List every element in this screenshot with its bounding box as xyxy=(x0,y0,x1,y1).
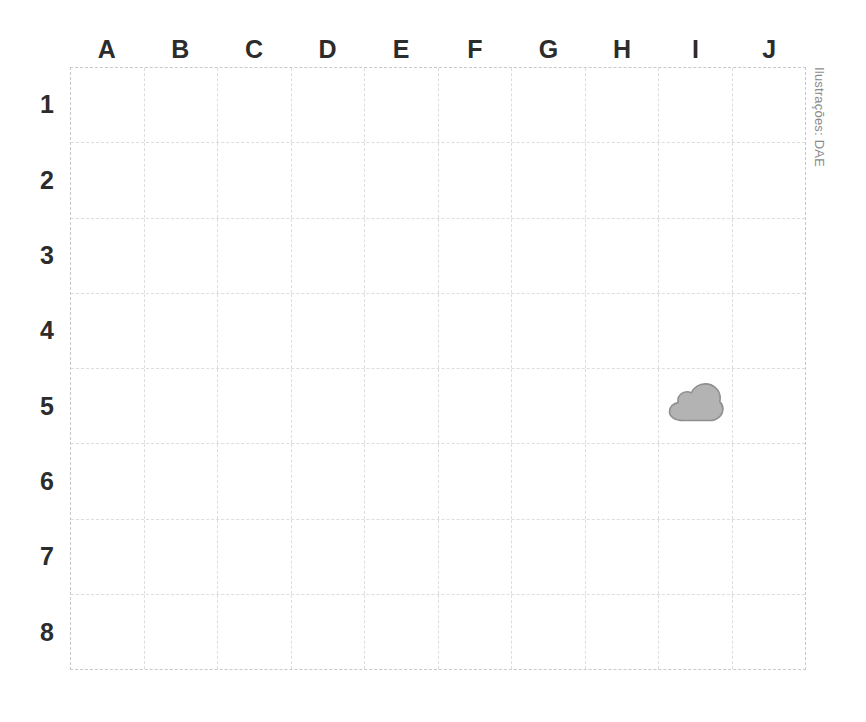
grid-cell-e8[interactable] xyxy=(365,595,439,669)
grid-row-4 xyxy=(71,294,805,369)
grid-cell-j5[interactable] xyxy=(733,369,806,443)
grid-cell-h8[interactable] xyxy=(586,595,660,669)
grid-cell-j4[interactable] xyxy=(733,294,806,368)
grid-cell-a6[interactable] xyxy=(71,444,145,518)
grid-cell-c2[interactable] xyxy=(218,143,292,217)
grid-cell-c8[interactable] xyxy=(218,595,292,669)
row-label-6: 6 xyxy=(30,444,64,519)
grid-cell-h6[interactable] xyxy=(586,444,660,518)
grid-cell-f4[interactable] xyxy=(439,294,513,368)
grid-cell-e6[interactable] xyxy=(365,444,439,518)
grid-cell-c1[interactable] xyxy=(218,68,292,142)
column-label-j: J xyxy=(732,34,806,64)
grid-cell-d5[interactable] xyxy=(292,369,366,443)
grid-rows xyxy=(71,68,805,669)
row-label-2: 2 xyxy=(30,142,64,217)
grid-cell-g2[interactable] xyxy=(512,143,586,217)
grid-cell-i6[interactable] xyxy=(659,444,733,518)
grid-cell-h3[interactable] xyxy=(586,219,660,293)
grid-cell-j7[interactable] xyxy=(733,520,806,594)
grid-cell-e4[interactable] xyxy=(365,294,439,368)
grid-cell-b4[interactable] xyxy=(145,294,219,368)
column-header-row: ABCDEFGHIJ xyxy=(70,34,806,64)
grid-cell-e3[interactable] xyxy=(365,219,439,293)
grid-cell-a2[interactable] xyxy=(71,143,145,217)
grid-cell-d7[interactable] xyxy=(292,520,366,594)
grid-cell-e2[interactable] xyxy=(365,143,439,217)
grid-cell-b3[interactable] xyxy=(145,219,219,293)
grid-cell-e5[interactable] xyxy=(365,369,439,443)
grid-cell-i5[interactable] xyxy=(659,369,733,443)
grid-cell-a8[interactable] xyxy=(71,595,145,669)
column-label-g: G xyxy=(512,34,586,64)
grid-cell-b8[interactable] xyxy=(145,595,219,669)
grid-cell-d6[interactable] xyxy=(292,444,366,518)
row-label-5: 5 xyxy=(30,369,64,444)
grid-cell-a5[interactable] xyxy=(71,369,145,443)
grid-cell-f6[interactable] xyxy=(439,444,513,518)
coordinate-grid xyxy=(70,67,806,670)
grid-row-1 xyxy=(71,68,805,143)
column-label-c: C xyxy=(217,34,291,64)
grid-cell-a1[interactable] xyxy=(71,68,145,142)
grid-cell-i7[interactable] xyxy=(659,520,733,594)
grid-cell-b1[interactable] xyxy=(145,68,219,142)
row-label-8: 8 xyxy=(30,595,64,670)
grid-cell-g7[interactable] xyxy=(512,520,586,594)
grid-cell-h4[interactable] xyxy=(586,294,660,368)
column-label-d: D xyxy=(291,34,365,64)
grid-cell-b7[interactable] xyxy=(145,520,219,594)
grid-cell-a7[interactable] xyxy=(71,520,145,594)
grid-cell-g5[interactable] xyxy=(512,369,586,443)
grid-cell-b2[interactable] xyxy=(145,143,219,217)
grid-cell-g3[interactable] xyxy=(512,219,586,293)
credit-block: Ilustrações: DAE xyxy=(812,67,834,227)
grid-cell-i2[interactable] xyxy=(659,143,733,217)
grid-cell-f5[interactable] xyxy=(439,369,513,443)
grid-cell-i1[interactable] xyxy=(659,68,733,142)
grid-cell-i3[interactable] xyxy=(659,219,733,293)
grid-cell-f1[interactable] xyxy=(439,68,513,142)
grid-cell-c4[interactable] xyxy=(218,294,292,368)
grid-cell-b5[interactable] xyxy=(145,369,219,443)
grid-cell-g4[interactable] xyxy=(512,294,586,368)
grid-cell-j2[interactable] xyxy=(733,143,806,217)
column-label-f: F xyxy=(438,34,512,64)
grid-cell-e1[interactable] xyxy=(365,68,439,142)
grid-cell-d2[interactable] xyxy=(292,143,366,217)
grid-row-2 xyxy=(71,143,805,218)
grid-cell-c3[interactable] xyxy=(218,219,292,293)
grid-cell-i4[interactable] xyxy=(659,294,733,368)
grid-cell-a3[interactable] xyxy=(71,219,145,293)
grid-cell-h5[interactable] xyxy=(586,369,660,443)
grid-cell-h7[interactable] xyxy=(586,520,660,594)
grid-cell-g6[interactable] xyxy=(512,444,586,518)
grid-cell-i8[interactable] xyxy=(659,595,733,669)
grid-cell-c7[interactable] xyxy=(218,520,292,594)
grid-cell-d3[interactable] xyxy=(292,219,366,293)
grid-cell-j1[interactable] xyxy=(733,68,806,142)
grid-cell-g8[interactable] xyxy=(512,595,586,669)
grid-cell-d8[interactable] xyxy=(292,595,366,669)
grid-cell-a4[interactable] xyxy=(71,294,145,368)
grid-cell-f7[interactable] xyxy=(439,520,513,594)
grid-cell-c6[interactable] xyxy=(218,444,292,518)
grid-cell-d1[interactable] xyxy=(292,68,366,142)
grid-cell-f8[interactable] xyxy=(439,595,513,669)
grid-row-5 xyxy=(71,369,805,444)
grid-cell-j6[interactable] xyxy=(733,444,806,518)
grid-cell-j3[interactable] xyxy=(733,219,806,293)
grid-row-6 xyxy=(71,444,805,519)
grid-cell-j8[interactable] xyxy=(733,595,806,669)
grid-cell-h2[interactable] xyxy=(586,143,660,217)
grid-cell-b6[interactable] xyxy=(145,444,219,518)
grid-cell-d4[interactable] xyxy=(292,294,366,368)
grid-row-7 xyxy=(71,520,805,595)
grid-cell-g1[interactable] xyxy=(512,68,586,142)
grid-cell-e7[interactable] xyxy=(365,520,439,594)
grid-cell-h1[interactable] xyxy=(586,68,660,142)
grid-cell-f2[interactable] xyxy=(439,143,513,217)
grid-cell-c5[interactable] xyxy=(218,369,292,443)
row-header-column: 12345678 xyxy=(30,67,64,670)
grid-cell-f3[interactable] xyxy=(439,219,513,293)
